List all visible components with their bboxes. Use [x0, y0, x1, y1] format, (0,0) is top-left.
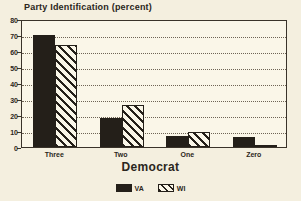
y-axis-tick-label: 10 — [0, 129, 18, 136]
bar-zero-wi — [255, 145, 277, 147]
bar-zero-va — [233, 137, 255, 147]
y-axis-tick-label: 50 — [0, 65, 18, 72]
bar-two-va — [100, 118, 122, 147]
y-axis-tick-label: 70 — [0, 33, 18, 40]
legend-entry-wi: WI — [158, 184, 186, 192]
y-axis-tick-label: 60 — [0, 49, 18, 56]
plot-area — [21, 20, 287, 148]
x-axis-tick-label-two: Two — [114, 151, 127, 158]
chart-legend: VAWI — [0, 184, 301, 192]
y-axis-tick-label: 0 — [0, 145, 18, 152]
bar-one-wi — [188, 132, 210, 147]
y-axis-tick-label: 30 — [0, 97, 18, 104]
y-axis-tick-label: 20 — [0, 113, 18, 120]
chart-screenshot: Party Identification (percent) 010203040… — [0, 0, 301, 201]
gridline — [22, 37, 286, 38]
bar-three-wi — [55, 45, 77, 147]
chart-title: Party Identification (percent) — [24, 2, 152, 12]
y-axis-tick-label: 40 — [0, 81, 18, 88]
legend-label-wi: WI — [177, 185, 186, 192]
legend-swatch-va — [116, 184, 132, 192]
x-axis-tick-label-one: One — [180, 151, 194, 158]
legend-label-va: VA — [135, 185, 144, 192]
bar-one-va — [166, 136, 188, 147]
x-axis-tick-label-zero: Zero — [246, 151, 261, 158]
y-axis-tick-label: 80 — [0, 17, 18, 24]
bar-two-wi — [122, 105, 144, 147]
x-axis-tick-label-three: Three — [45, 151, 64, 158]
legend-swatch-wi — [158, 184, 174, 192]
bar-three-va — [33, 35, 55, 147]
legend-entry-va: VA — [116, 184, 144, 192]
x-axis-title: Democrat — [0, 160, 301, 174]
